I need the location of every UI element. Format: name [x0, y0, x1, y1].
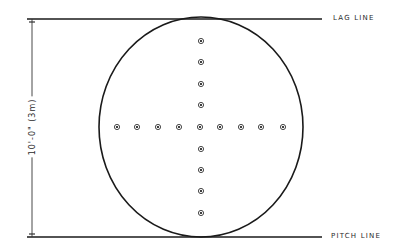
target-dot — [114, 124, 119, 129]
target-dot — [198, 210, 203, 215]
dimension-label: 10'-0" (3m) — [28, 97, 37, 158]
target-dot — [217, 124, 222, 129]
pitch-line-label: PITCH LINE — [331, 232, 381, 240]
target-dot — [198, 167, 203, 172]
target-dot — [198, 38, 203, 43]
target-dots-group — [114, 38, 285, 215]
target-dot — [258, 124, 263, 129]
target-dot — [198, 188, 203, 193]
target-dot — [238, 124, 243, 129]
target-dot — [280, 124, 285, 129]
target-dot — [198, 102, 203, 107]
target-dot — [197, 124, 202, 129]
putting-layout-drawing — [0, 0, 419, 251]
target-dot — [198, 81, 203, 86]
target-dot — [198, 59, 203, 64]
target-dot — [198, 146, 203, 151]
target-dot — [155, 124, 160, 129]
lag-line-label: LAG LINE — [333, 14, 375, 22]
target-dot — [134, 124, 139, 129]
diagram-canvas: LAG LINE PITCH LINE 10'-0" (3m) — [0, 0, 419, 251]
target-dot — [176, 124, 181, 129]
